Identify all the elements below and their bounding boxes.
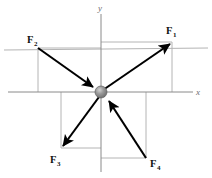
force-label-f1-subscript: 1: [173, 31, 177, 39]
force-vectors: [38, 44, 170, 158]
force-label-f2-subscript: 2: [34, 40, 38, 48]
guide-upper-horizontal-rule: [4, 48, 208, 50]
force-label-f1-letter: F: [166, 25, 172, 36]
force-label-f2: F 2: [27, 34, 38, 48]
force-label-f4-subscript: 4: [157, 164, 161, 172]
force-label-f1: F 1: [166, 25, 177, 39]
component-guide-lines: [4, 42, 208, 158]
force-diagram-figure: x y F 1 F 2 F 3 F 4: [0, 0, 212, 178]
particle-sphere: [95, 86, 107, 98]
force-label-f2-letter: F: [27, 34, 33, 45]
force-label-f4-letter: F: [150, 158, 156, 169]
y-axis-label: y: [97, 3, 102, 13]
force-label-f3-subscript: 3: [57, 160, 61, 168]
x-axis-label: x: [195, 87, 200, 97]
vector-f4: [109, 101, 146, 158]
force-diagram-canvas: x y F 1 F 2 F 3 F 4: [0, 0, 212, 178]
vector-f2: [38, 48, 93, 87]
force-label-f4: F 4: [150, 158, 161, 172]
force-label-f3: F 3: [50, 154, 61, 168]
vector-f1: [103, 44, 170, 90]
force-label-f3-letter: F: [50, 154, 56, 165]
particle-at-origin: [95, 86, 107, 98]
vector-f3: [63, 97, 99, 146]
